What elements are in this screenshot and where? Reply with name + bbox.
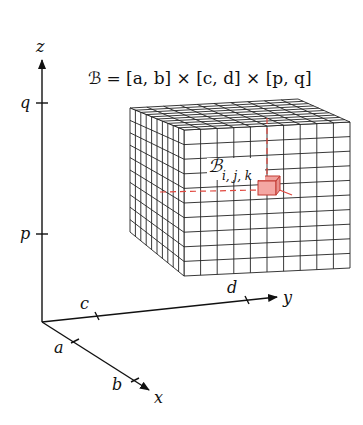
tick-label-q: q: [20, 93, 30, 112]
tick-label-d: d: [227, 278, 237, 297]
tick-label-p: p: [20, 224, 30, 243]
y-axis: [42, 297, 277, 322]
box-grid: [130, 99, 350, 276]
subbox-subscript: i, j, k: [222, 169, 252, 183]
tick-label-b: b: [112, 375, 122, 394]
z-axis-label: z: [35, 37, 45, 56]
tick-label-a: a: [54, 338, 64, 357]
box-definition: ℬ = [a, b] × [c, d] × [p, q]: [88, 68, 312, 88]
subbox-front: [258, 181, 276, 195]
x-axis-label: x: [154, 388, 163, 407]
tick-label-c: c: [80, 294, 89, 313]
box-partition-diagram: z q p c d y a b x ℬ = [a, b] × [c, d] × …: [0, 0, 363, 425]
y-axis-label: y: [282, 288, 293, 307]
